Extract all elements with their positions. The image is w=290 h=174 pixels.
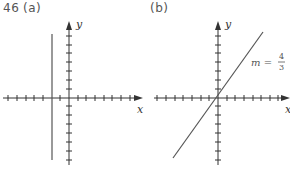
panel-b-y-arrow-icon: [215, 21, 221, 30]
slope-numerator: 4: [279, 52, 284, 61]
slope-denominator: 3: [279, 63, 284, 72]
panel-a-x-arrow-icon: [134, 95, 143, 101]
panel-b-x-arrow-icon: [281, 95, 290, 101]
panel-a: [3, 21, 143, 165]
panel-a-y-axis-label: y: [75, 18, 83, 31]
slope-prefix: m =: [251, 57, 272, 68]
diagram-canvas: y x: [0, 0, 290, 174]
panel-b-y-axis-label: y: [224, 18, 232, 31]
panel-a-y-arrow-icon: [66, 21, 72, 30]
panel-b-x-axis-label: x: [285, 103, 290, 116]
slope-annotation: m = 4 3: [251, 52, 285, 72]
panel-a-x-axis-label: x: [137, 103, 144, 116]
panel-b: [154, 21, 290, 165]
